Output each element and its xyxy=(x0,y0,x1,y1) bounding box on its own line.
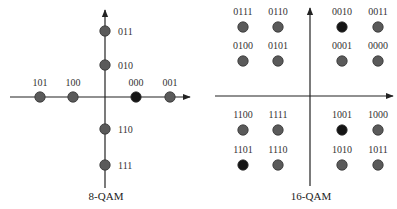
symbol-label: 001 xyxy=(163,77,178,88)
constellation-point xyxy=(165,92,175,102)
symbol-label: 110 xyxy=(118,124,133,135)
constellation-point xyxy=(373,125,383,135)
symbol-label: 000 xyxy=(129,77,144,88)
symbol-label: 0001 xyxy=(332,40,352,51)
symbol-label: 100 xyxy=(66,77,81,88)
symbol-label: 1100 xyxy=(233,109,253,120)
constellation-point xyxy=(373,160,383,170)
constellation-point xyxy=(273,56,283,66)
symbol-label: 1000 xyxy=(368,109,388,120)
constellation-point xyxy=(35,92,45,102)
constellation-diagrams: 0110101011000000011101118-QAM 0111011000… xyxy=(0,0,397,209)
symbol-label: 1110 xyxy=(268,144,287,155)
constellation-point xyxy=(337,160,347,170)
symbol-label: 0101 xyxy=(268,40,288,51)
symbol-label: 0100 xyxy=(233,40,253,51)
diagram-caption: 16-QAM xyxy=(291,190,332,202)
symbol-label: 1011 xyxy=(368,144,388,155)
constellation-point xyxy=(100,26,110,36)
constellation-point xyxy=(337,125,347,135)
constellation-point xyxy=(273,22,283,32)
symbol-label: 1010 xyxy=(332,144,352,155)
constellation-point xyxy=(238,125,248,135)
symbol-label: 101 xyxy=(33,77,48,88)
constellation-point xyxy=(68,92,78,102)
8-qam-constellation: 0110101011000000011101118-QAM xyxy=(10,10,190,202)
constellation-point xyxy=(238,22,248,32)
constellation-point xyxy=(100,124,110,134)
symbol-label: 0110 xyxy=(268,6,288,17)
symbol-label: 111 xyxy=(118,160,132,171)
constellation-point xyxy=(131,92,141,102)
symbol-label: 011 xyxy=(118,26,133,37)
symbol-label: 1111 xyxy=(269,109,288,120)
constellation-point xyxy=(238,160,248,170)
constellation-point xyxy=(238,56,248,66)
16-qam-constellation: 0111011000100011010001010001000011001111… xyxy=(215,6,393,202)
symbol-label: 1101 xyxy=(233,144,253,155)
diagram-caption: 8-QAM xyxy=(89,190,124,202)
constellation-point xyxy=(337,56,347,66)
constellation-point xyxy=(100,160,110,170)
symbol-label: 1001 xyxy=(332,109,352,120)
constellation-point xyxy=(273,125,283,135)
symbol-label: 0011 xyxy=(368,6,388,17)
constellation-point xyxy=(337,22,347,32)
symbol-label: 010 xyxy=(118,60,133,71)
symbol-label: 0000 xyxy=(368,40,388,51)
symbol-label: 0111 xyxy=(233,6,252,17)
constellation-point xyxy=(100,60,110,70)
constellation-point xyxy=(273,160,283,170)
constellation-point xyxy=(373,22,383,32)
symbol-label: 0010 xyxy=(332,6,352,17)
constellation-point xyxy=(373,56,383,66)
